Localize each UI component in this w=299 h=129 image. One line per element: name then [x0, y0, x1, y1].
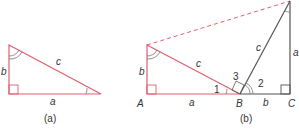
figure-b: b c a c a b A B C 1 2 3 (b) [136, 1, 299, 124]
right-angle-marker-A [147, 85, 156, 94]
diagram-canvas: b c a (a) b c a c a b A B C 1 2 3 (b) [0, 0, 299, 129]
dashed-hypotenuse [147, 1, 290, 45]
label-b: b [1, 66, 7, 77]
caption-b: (b) [240, 113, 252, 124]
angle-arc-2b [246, 83, 253, 94]
right-angle-marker-a [9, 85, 18, 94]
triangle-left [147, 45, 240, 94]
right-angle-marker-C [281, 85, 290, 94]
label-b-bottom: b [263, 97, 269, 108]
angle-label-2: 2 [258, 78, 264, 89]
label-c-left: c [196, 58, 201, 69]
figure-a: b c a (a) [1, 45, 101, 124]
caption-a: (a) [44, 113, 56, 124]
vertex-B: B [236, 98, 243, 109]
angle-arc-2 [245, 85, 250, 94]
angle-arc-right-a [86, 88, 87, 94]
label-a-right: a [293, 47, 299, 58]
segment-B-top [240, 1, 290, 94]
angle-label-3: 3 [233, 71, 239, 82]
right-angle-marker-3 [232, 81, 244, 94]
vertex-C: C [288, 98, 296, 109]
angle-arc-1 [226, 89, 227, 94]
angle-arc-top-left [147, 50, 157, 56]
label-a-bottom: a [189, 97, 195, 108]
angle-arc-top-a [9, 50, 19, 56]
label-a: a [50, 96, 56, 107]
label-c-right: c [256, 42, 261, 53]
angle-arc-top-right [285, 11, 290, 12]
triangle-a [9, 45, 101, 94]
label-b-left: b [139, 66, 145, 77]
vertex-A: A [136, 98, 144, 109]
angle-label-1: 1 [214, 84, 220, 95]
label-c: c [56, 56, 61, 67]
